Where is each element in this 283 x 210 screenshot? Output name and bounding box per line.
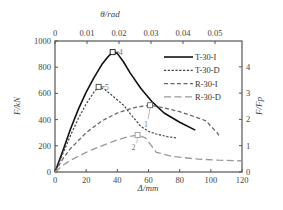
x-tick-label: 0 (53, 175, 57, 185)
right-tick-label: 2 (246, 114, 250, 124)
top-axis-title: θ/rad (100, 9, 120, 19)
top-tick-label: 0.01 (80, 28, 95, 38)
right-tick-label: 3 (246, 88, 250, 98)
y-tick-label: 400 (38, 115, 51, 125)
right-axis-title: F/Fp (254, 97, 264, 116)
series-line-t-30-i (55, 52, 195, 172)
x-axis-title: Δ/mm (137, 183, 159, 193)
chart-svg: 0204060801001200200400600800100000.010.0… (0, 0, 283, 210)
top-tick-label: 0.03 (144, 28, 159, 38)
chart-figure: 0204060801001200200400600800100000.010.0… (0, 0, 283, 210)
peak-marker (148, 103, 153, 108)
series-line-r-30-d (55, 135, 242, 172)
legend-label: T-30-I (195, 52, 217, 62)
peak-marker (110, 50, 115, 55)
y-tick-label: 600 (38, 88, 51, 98)
y-tick-label: 0 (47, 167, 51, 177)
right-tick-label: 0 (246, 167, 250, 177)
x-tick-label: 20 (82, 175, 91, 185)
x-tick-label: 80 (175, 175, 184, 185)
right-tick-label: 4 (246, 62, 251, 72)
legend-label: T-30-D (195, 65, 220, 75)
peak-marker (96, 84, 101, 89)
top-tick-label: 0 (53, 28, 57, 38)
legend-label: R-30-D (195, 92, 221, 102)
y-tick-label: 800 (38, 62, 51, 72)
legend: T-30-IT-30-DR-30-IR-30-D (164, 52, 221, 102)
y-tick-label: 200 (38, 141, 51, 151)
peak-marker (135, 133, 140, 138)
top-tick-label: 0.04 (176, 28, 192, 38)
peak-annotation: 2 (132, 143, 136, 152)
x-tick-label: 40 (113, 175, 122, 185)
peak-annotation: 1 (144, 120, 148, 129)
legend-label: R-30-I (195, 79, 218, 89)
peak-annotation: 5 (105, 83, 109, 92)
x-tick-label: 100 (204, 175, 217, 185)
peak-annotation: 4 (119, 48, 123, 57)
y-tick-label: 1000 (34, 36, 51, 46)
top-tick-label: 0.02 (112, 28, 127, 38)
y-axis-title: F/kN (12, 96, 22, 116)
top-tick-label: 0.05 (208, 28, 223, 38)
right-tick-label: 1 (246, 141, 250, 151)
